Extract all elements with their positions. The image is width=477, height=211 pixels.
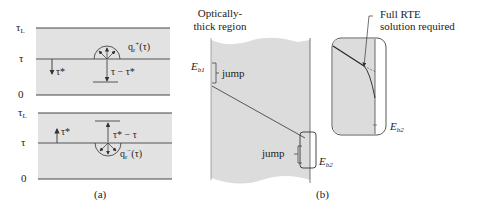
eb1-label: Eb1 [190, 60, 205, 74]
inset-region [333, 39, 375, 134]
zero-label: 0 [21, 172, 27, 184]
jump-label-top: jump [221, 67, 245, 79]
optically-thick-region [211, 38, 310, 184]
flux-minus-label: qr−(τ) [120, 147, 142, 161]
inset-note-line1: Full RTE [380, 8, 421, 20]
distance-label: τ − τ* [111, 66, 135, 77]
tau-star-label: τ* [56, 66, 65, 77]
radiative-transfer-figure: τL τ 0 τ* τ − τ* qr+(τ) τL τ 0 τ* [0, 0, 477, 211]
inset-detail: Full RTE solution required Eb2 [332, 8, 455, 135]
tau-label: τ [21, 136, 26, 148]
slab-top [36, 28, 170, 95]
caption-a: (a) [94, 188, 107, 201]
jump-label-bottom: jump [261, 147, 285, 159]
region-title-line2: thick region [194, 20, 247, 32]
caption-b: (b) [316, 188, 329, 201]
inset-note-line2: solution required [380, 20, 455, 32]
flux-plus-label: qr+(τ) [128, 40, 150, 54]
distance-label: τ* − τ [113, 129, 137, 140]
tau-star-label: τ* [61, 126, 70, 137]
inset-eb2-label: Eb2 [389, 120, 404, 134]
eb2-label: Eb2 [318, 155, 333, 169]
panel-b: Optically- thick region Eb1 jump jump Eb… [190, 7, 333, 201]
zero-label: 0 [18, 88, 24, 100]
region-title-line1: Optically- [198, 7, 243, 19]
panel-a-bottom: τL τ 0 τ* τ* − τ qr−(τ) [18, 106, 172, 184]
tau-L-label: τL [18, 106, 27, 120]
tau-L-label: τL [16, 21, 25, 35]
panel-a-top: τL τ 0 τ* τ − τ* qr+(τ) [16, 21, 170, 100]
tau-label: τ [19, 52, 24, 64]
